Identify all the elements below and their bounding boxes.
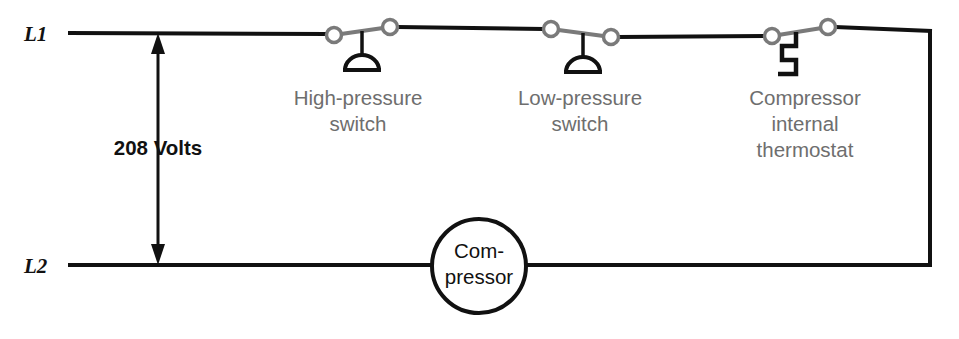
voltage-arrowhead-down [151, 244, 165, 265]
compressor-load[interactable]: Com- pressor [432, 219, 526, 313]
voltage-label: 208 Volts [114, 136, 203, 159]
thermostat-label-line1: Compressor [749, 86, 861, 109]
schematic-canvas: L1 L2 208 Volts [0, 0, 959, 339]
l1-wire-segment-between-hp-lp [397, 27, 544, 29]
low-pressure-right-terminal-icon [604, 30, 619, 45]
l1-bus-label: L1 [23, 22, 47, 46]
compressor-internal-thermostat[interactable]: Compressor internal thermostat [749, 20, 861, 162]
low-pressure-switch-label-line1: Low-pressure [518, 86, 642, 109]
thermostat-left-terminal-icon [765, 29, 780, 44]
voltage-dimension-group: 208 Volts [114, 33, 203, 265]
compressor-label-line2: pressor [445, 265, 514, 288]
thermostat-right-terminal-icon [821, 20, 836, 35]
l1-wire-segment-between-lp-thermostat [618, 36, 765, 37]
low-pressure-switch-label-line2: switch [552, 112, 609, 135]
ladder-diagram: L1 L2 208 Volts [0, 0, 959, 339]
l1-wire-segment-right [835, 27, 932, 31]
high-pressure-switch[interactable]: High-pressure switch [294, 20, 423, 136]
l2-bus-label: L2 [23, 254, 48, 278]
high-pressure-switch-label-line2: switch [330, 112, 387, 135]
thermostat-label-line3: thermostat [757, 138, 854, 161]
voltage-arrowhead-up [151, 33, 165, 54]
thermostat-label-line2: internal [771, 112, 838, 135]
high-pressure-bellows-dome-icon [345, 55, 379, 70]
high-pressure-left-terminal-icon [327, 28, 342, 43]
l1-wire-segment-left [68, 33, 327, 34]
low-pressure-left-terminal-icon [544, 22, 559, 37]
compressor-label-line1: Com- [454, 239, 504, 262]
high-pressure-switch-label-line1: High-pressure [294, 86, 423, 109]
low-pressure-bellows-dome-icon [566, 57, 600, 72]
high-pressure-right-terminal-icon [383, 20, 398, 35]
